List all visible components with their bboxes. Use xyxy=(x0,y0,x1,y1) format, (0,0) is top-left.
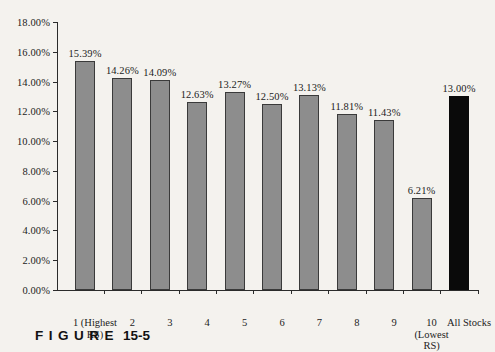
bar: 6.21% xyxy=(412,198,432,290)
bar-value-label: 11.81% xyxy=(331,101,364,112)
y-axis-tick xyxy=(53,82,57,83)
y-axis-tick xyxy=(53,141,57,142)
y-axis-tick-label: 14.00% xyxy=(17,76,50,87)
x-axis-tick xyxy=(403,290,404,294)
bar-value-label: 12.50% xyxy=(256,91,289,102)
x-axis-tick xyxy=(253,290,254,294)
bar: 11.81% xyxy=(337,114,357,290)
y-axis-tick-label: 4.00% xyxy=(22,225,50,236)
y-axis-tick xyxy=(53,111,57,112)
x-axis-tick xyxy=(141,290,142,294)
y-axis-line xyxy=(57,22,58,290)
figure-caption-word: FIGURE xyxy=(35,328,119,343)
y-axis-tick-label: 2.00% xyxy=(22,255,50,266)
y-axis-tick xyxy=(53,171,57,172)
bar-value-label: 14.26% xyxy=(106,65,139,76)
y-axis-tick xyxy=(53,290,57,291)
bar: 15.39% xyxy=(75,61,95,290)
bar: 14.26% xyxy=(112,78,132,290)
y-axis-tick xyxy=(53,52,57,53)
bar-chart-plot-area: 0.00%2.00%4.00%6.00%8.00%10.00%12.00%14.… xyxy=(57,22,478,290)
y-axis-tick-label: 16.00% xyxy=(17,46,50,57)
x-axis-tick xyxy=(328,290,329,294)
x-axis-tick xyxy=(216,290,217,294)
bar-value-label: 13.00% xyxy=(443,83,476,94)
bar: 12.50% xyxy=(262,104,282,290)
bar: 12.63% xyxy=(187,102,207,290)
x-axis-line xyxy=(57,290,478,291)
y-axis-tick-label: 6.00% xyxy=(22,195,50,206)
y-axis-tick xyxy=(53,201,57,202)
figure-caption: FIGURE15-5 xyxy=(35,328,150,343)
bar-value-label: 15.39% xyxy=(69,48,102,59)
y-axis-tick-label: 10.00% xyxy=(17,136,50,147)
x-axis-tick xyxy=(179,290,180,294)
y-axis-tick xyxy=(53,260,57,261)
y-axis-tick-label: 12.00% xyxy=(17,106,50,117)
x-axis-tick xyxy=(440,290,441,294)
x-axis-tick xyxy=(478,290,479,294)
bar: 13.00% xyxy=(449,96,469,290)
y-axis-tick xyxy=(53,230,57,231)
bar-value-label: 13.13% xyxy=(293,82,326,93)
x-axis-tick xyxy=(291,290,292,294)
y-axis-tick-label: 8.00% xyxy=(22,165,50,176)
bar: 13.13% xyxy=(299,95,319,290)
bar: 14.09% xyxy=(150,80,170,290)
bar-value-label: 12.63% xyxy=(181,89,214,100)
figure-caption-number: 15-5 xyxy=(123,328,150,343)
bar-value-label: 13.27% xyxy=(218,79,251,90)
x-axis-tick xyxy=(104,290,105,294)
y-axis-tick-label: 0.00% xyxy=(22,285,50,296)
bar-value-label: 11.43% xyxy=(368,107,401,118)
x-axis-tick xyxy=(366,290,367,294)
x-axis-category-label: All Stocks xyxy=(426,317,495,329)
bar: 11.43% xyxy=(374,120,394,290)
y-axis-tick-label: 18.00% xyxy=(17,17,50,28)
bar: 13.27% xyxy=(225,92,245,290)
y-axis-tick xyxy=(53,22,57,23)
bar-value-label: 14.09% xyxy=(143,67,176,78)
bar-value-label: 6.21% xyxy=(408,185,436,196)
